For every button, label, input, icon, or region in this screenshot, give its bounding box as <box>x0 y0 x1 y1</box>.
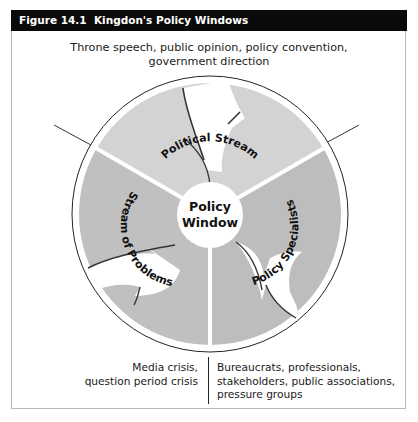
bottom-right-caption: Bureaucrats, professionals, stakeholders… <box>217 361 395 402</box>
leader-line-right <box>324 125 359 144</box>
bottom-right-caption-line1: Bureaucrats, professionals, <box>217 361 395 375</box>
bottom-left-caption: Media crisis, question period crisis <box>85 361 198 388</box>
bottom-caption-divider <box>208 357 209 404</box>
bottom-right-caption-line2: stakeholders, public associations, <box>217 375 395 389</box>
bottom-left-caption-line2: question period crisis <box>85 375 198 389</box>
center-label-line1: Policy <box>189 199 231 214</box>
bottom-left-caption-line1: Media crisis, <box>85 361 198 375</box>
leader-line-left <box>54 125 91 145</box>
center-label-line2: Window <box>182 215 239 230</box>
policy-window-diagram: Policy Window Political Stream Stream of… <box>0 0 418 422</box>
bottom-right-caption-line3: pressure groups <box>217 388 395 402</box>
